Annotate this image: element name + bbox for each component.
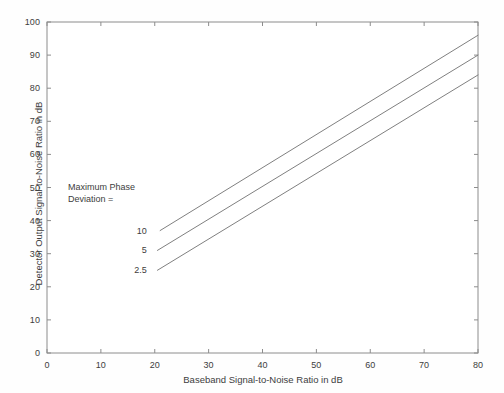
y-axis-title: Detector Output Signal-to-Noise Ratio in… bbox=[33, 94, 44, 294]
x-tick-label: 0 bbox=[44, 360, 49, 370]
x-tick-label: 40 bbox=[257, 360, 267, 370]
x-tick-label: 10 bbox=[96, 360, 106, 370]
y-tick-label: 0 bbox=[8, 348, 40, 358]
x-axis-title: Baseband Signal-to-Noise Ratio in dB bbox=[183, 374, 342, 385]
y-tick-label: 10 bbox=[8, 315, 40, 325]
y-tick-label: 100 bbox=[8, 17, 40, 27]
series-label-5: 5 bbox=[103, 245, 147, 255]
series-label-2-5: 2.5 bbox=[103, 265, 147, 275]
chart-figure: 0102030405060708090100 01020304050607080… bbox=[0, 0, 504, 393]
max-phase-deviation-annotation: Maximum Phase Deviation = bbox=[68, 182, 135, 205]
x-tick-label: 50 bbox=[311, 360, 321, 370]
series-label-10: 10 bbox=[103, 226, 147, 236]
x-tick-label: 20 bbox=[150, 360, 160, 370]
y-tick-label: 90 bbox=[8, 50, 40, 60]
x-tick-label: 30 bbox=[204, 360, 214, 370]
x-tick-label: 60 bbox=[365, 360, 375, 370]
x-tick-label: 70 bbox=[419, 360, 429, 370]
y-tick-label: 80 bbox=[8, 83, 40, 93]
x-tick-label: 80 bbox=[473, 360, 483, 370]
